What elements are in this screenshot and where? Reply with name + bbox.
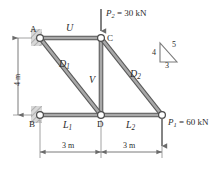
- joint-C: [98, 35, 105, 42]
- dimension-label-span-right: 3 m: [123, 142, 135, 150]
- slope-label-horizontal: 3: [165, 62, 169, 70]
- load-label-P1: P1 = 60 kN: [168, 118, 209, 128]
- truss-diagram-figure: A C B D U D1 V D2 L1 L2 P2 = 30 kN P1 = …: [0, 0, 219, 169]
- member-label-L2: L2: [126, 120, 135, 132]
- member-label-U: U: [66, 23, 73, 33]
- node-label-D: D: [97, 120, 104, 129]
- member-label-V: V: [89, 75, 95, 85]
- joint-B: [37, 112, 44, 119]
- joint-E: [159, 112, 166, 119]
- load-label-P2: P2 = 30 kN: [106, 9, 147, 19]
- node-label-B: B: [29, 120, 35, 129]
- joint-D: [98, 112, 105, 119]
- member-label-L1: L1: [63, 120, 72, 132]
- node-label-A: A: [30, 25, 37, 34]
- dimension-label-height: 4 m: [14, 74, 22, 86]
- member-label-D2: D2: [130, 69, 141, 81]
- slope-label-hypotenuse: 5: [172, 41, 176, 49]
- dimension-label-span-left: 3 m: [62, 142, 74, 150]
- node-label-C: C: [107, 34, 113, 43]
- slope-label-vertical: 4: [152, 49, 156, 57]
- joint-A: [37, 35, 44, 42]
- member-label-D1: D1: [59, 59, 70, 71]
